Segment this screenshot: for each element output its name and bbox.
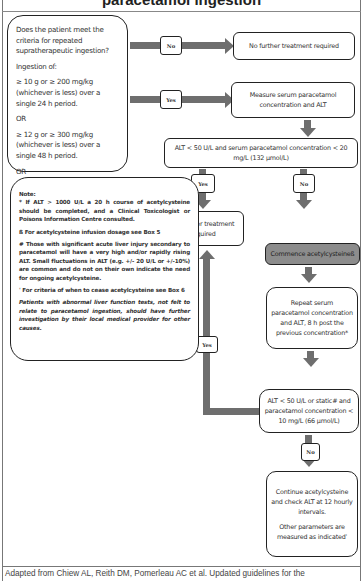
- or-separator-2: OR: [16, 167, 121, 178]
- no-label-2: No: [293, 174, 315, 193]
- yes-return-arrow-horizontal: [203, 408, 259, 415]
- note-abnormal-lft: Patients with abnormal liver function te…: [19, 298, 190, 332]
- measure-box: Measure serum paracetamol concentration …: [231, 82, 355, 118]
- notes-heading: Note:: [19, 190, 190, 198]
- criteria-option-1: ≥ 10 g or ≥ 200 mg/kg (whichever is less…: [16, 77, 121, 109]
- alt-check-text-1: ALT < 50 U/L and serum paracetamol conce…: [173, 143, 349, 163]
- arrow-down-icon: [303, 358, 319, 367]
- notes-box: Note: * If ALT > 1000 U/L a 20 h course …: [10, 177, 199, 361]
- no-label-1: No: [160, 36, 182, 55]
- continue-acetylcysteine-box: Continue acetylcysteine and check ALT at…: [266, 471, 358, 557]
- no-label-3: No: [301, 443, 320, 461]
- ingestion-label: Ingestion of:: [16, 62, 121, 73]
- commence-text: Commence acetylcysteineß: [271, 249, 355, 259]
- alt-check-box-1: ALT < 50 U/L and serum paracetamol conce…: [164, 138, 358, 168]
- commence-acetylcysteine-box: Commence acetylcysteineß: [265, 243, 360, 265]
- yes-label-1: Yes: [160, 90, 182, 109]
- title-divider: [2, 11, 361, 12]
- arrow-down-icon: [300, 128, 316, 137]
- diagram-title: paracetamol ingestion: [0, 0, 363, 8]
- continue-text: Continue acetylcysteine and check ALT at…: [271, 487, 353, 517]
- arrow-up-icon: [199, 250, 215, 259]
- yes-label-3: Yes: [196, 336, 218, 353]
- criteria-question: Does the patient meet the criteria for r…: [16, 25, 121, 57]
- repeat-text: Repeat serum paracetamol concentration a…: [271, 298, 353, 338]
- criteria-box: Does the patient meet the criteria for r…: [7, 15, 128, 172]
- note-infusion-dosage: ß For acetylcysteine infusion dosage see…: [19, 228, 190, 236]
- note-cease-criteria: ˈ For criteria of when to cease acetylcy…: [19, 286, 190, 294]
- measure-text: Measure serum paracetamol concentration …: [238, 90, 348, 110]
- alt-check-box-2: ALT < 50 U/L or static# and paracetamol …: [259, 389, 359, 433]
- criteria-option-2: ≥ 12 g or ≥ 300 mg/kg (whichever is less…: [16, 130, 121, 162]
- note-alt-over-1000: * If ALT > 1000 U/L a 20 h course of ace…: [19, 198, 190, 223]
- arrow-down-icon: [301, 274, 317, 283]
- arrow-down-icon: [296, 200, 312, 209]
- repeat-measurement-box: Repeat serum paracetamol concentration a…: [266, 287, 358, 349]
- or-separator-1: OR: [16, 114, 121, 125]
- note-liver-injury: # Those with significant acute liver inj…: [19, 240, 190, 282]
- other-parameters-text: Other parameters are measured as indicat…: [271, 522, 353, 542]
- footer-divider: [2, 566, 361, 567]
- no-further-treatment-text-1: No further treatment required: [249, 41, 339, 51]
- citation-footer: Adapted from Chiew AL, Reith DM, Pomerle…: [5, 569, 363, 578]
- no-further-treatment-box-1: No further treatment required: [233, 32, 355, 60]
- alt-check-text-2: ALT < 50 U/L or static# and paracetamol …: [264, 396, 354, 426]
